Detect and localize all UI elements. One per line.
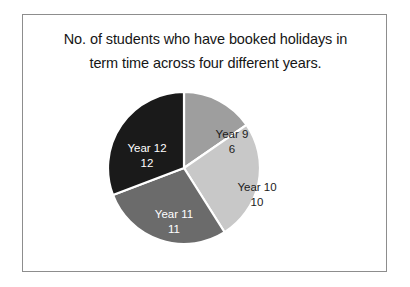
pie-chart: Year 9 6 Year 10 10 Year 11 11 Year 12 1…	[23, 15, 388, 273]
pie-slice-group	[108, 92, 260, 244]
chart-card: No. of students who have booked holidays…	[22, 14, 387, 272]
pie-chart-svg	[106, 90, 262, 246]
